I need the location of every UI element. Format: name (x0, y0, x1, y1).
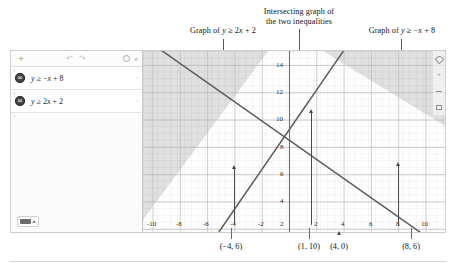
expression-text-2: y ≥ 2x + 2 (31, 97, 63, 106)
pointer-arrow-8-6 (396, 162, 400, 166)
figure-root: Graph of y ≥ 2x + 2 Intersecting graph o… (0, 0, 456, 268)
x-tick-2: 2 (314, 220, 318, 228)
chevron-up-icon: ▲ (32, 219, 37, 224)
row-number-2: 2 (13, 91, 15, 96)
inequality-shade-toggle-1[interactable]: ≈ (15, 73, 25, 83)
expression-toolbar: + ↶ ↷ « (11, 51, 142, 67)
bottom-divider (10, 261, 446, 262)
delete-expression-1[interactable]: × (135, 74, 139, 81)
undo-button[interactable]: ↶ (66, 54, 73, 63)
redo-button[interactable]: ↷ (79, 54, 86, 63)
expression-row-1[interactable]: 1 ≈ y ≥ −x + 8 × (11, 67, 142, 90)
home-reset-icon[interactable] (433, 99, 445, 115)
graphing-calculator-window: + ↶ ↷ « 1 ≈ y ≥ −x + 8 (10, 50, 446, 233)
pointer-arrow-neg4 (232, 165, 236, 169)
x-tick--10: -10 (147, 220, 156, 228)
row-number-3: 3 (13, 114, 15, 119)
graph-svg (143, 51, 445, 232)
zoom-in-icon[interactable]: + (433, 67, 445, 83)
callout-middle-line2: the two inequalities (247, 17, 351, 27)
pointer-line-neg4 (234, 169, 235, 224)
point-leader-1-10 (309, 228, 310, 239)
callout-middle-line1: Intersecting graph of (247, 7, 351, 17)
graph-canvas[interactable]: 14 12 10 8 6 4 2 -10 -8 -6 -4 -2 2 4 6 8… (143, 51, 445, 232)
point-label-8-6: (8, 6) (381, 242, 441, 251)
y-tick-2: 2 (280, 220, 284, 228)
collapse-panel-icon[interactable]: « (134, 55, 138, 63)
callout-right-text: Graph of y ≥ −x + 8 (369, 26, 436, 35)
add-expression-button[interactable]: + (14, 53, 28, 64)
settings-wrench-icon[interactable] (433, 51, 445, 67)
x-tick--2: -2 (258, 220, 264, 228)
y-tick-6: 6 (280, 170, 284, 178)
y-tick-14: 14 (276, 61, 283, 69)
expression-row-2[interactable]: 2 ≈ y ≥ 2x + 2 × (11, 90, 142, 113)
pointer-line-8-6 (398, 166, 399, 226)
pointer-line-1-10 (311, 113, 312, 225)
graph-toolbar: + (433, 51, 445, 115)
grid-layer (143, 51, 445, 232)
undo-redo-group: ↶ ↷ (28, 54, 123, 63)
inequality-shade-toggle-2[interactable]: ≈ (15, 96, 25, 106)
gear-icon[interactable] (123, 55, 130, 62)
zoom-out-icon[interactable] (433, 83, 445, 99)
x-tick-6: 6 (369, 220, 373, 228)
y-tick-4: 4 (280, 197, 284, 205)
y-tick-10: 10 (276, 115, 283, 123)
callout-left-label: Graph of y ≥ 2x + 2 (168, 26, 278, 36)
expression-text-1: y ≥ −x + 8 (31, 74, 64, 83)
callout-left-text: Graph of y ≥ 2x + 2 (190, 26, 256, 35)
x-tick--8: -8 (176, 220, 182, 228)
expression-list: 1 ≈ y ≥ −x + 8 × 2 ≈ y ≥ 2x + 2 (11, 67, 142, 232)
row-number-1: 1 (13, 68, 15, 73)
x-tick-4: 4 (341, 220, 345, 228)
x-tick-10: 10 (421, 220, 428, 228)
keyboard-toggle-button[interactable]: ▲ (17, 216, 39, 227)
point-leader-8-6 (411, 228, 412, 239)
keyboard-icon (20, 219, 31, 224)
shade-icon-1: ≈ (18, 75, 22, 82)
point-label-4-0: (4, 0) (309, 242, 369, 251)
delete-expression-2[interactable]: × (135, 97, 139, 104)
pointer-arrow-1-10 (309, 109, 313, 113)
callout-right-label: Graph of y ≥ −x + 8 (349, 26, 455, 36)
callout-middle-label: Intersecting graph of the two inequaliti… (247, 7, 351, 26)
expression-row-empty[interactable]: 3 (11, 113, 142, 125)
shade-icon-2: ≈ (18, 98, 22, 105)
point-label-neg4-6: (−4, 6) (201, 242, 261, 251)
point-arrow-4-0 (337, 231, 341, 235)
panel-right-controls: « (123, 55, 139, 63)
y-tick-8: 8 (280, 143, 284, 151)
expression-panel: + ↶ ↷ « 1 ≈ y ≥ −x + 8 (11, 51, 143, 232)
y-tick-12: 12 (276, 88, 283, 96)
point-leader-neg4-6 (231, 228, 232, 239)
x-tick--6: -6 (203, 220, 209, 228)
